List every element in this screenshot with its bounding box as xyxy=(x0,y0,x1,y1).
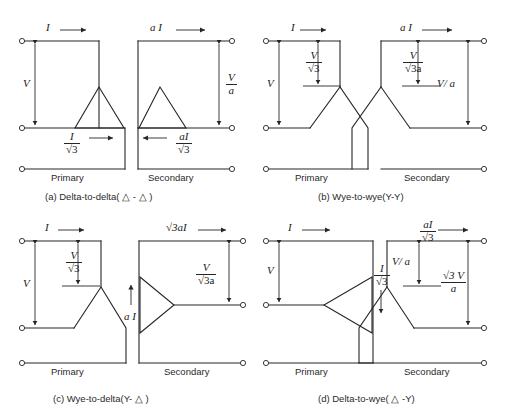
panel-b-secondary-phase-voltage-fraction: V √3a xyxy=(403,50,423,74)
fraction-denominator: a xyxy=(226,84,237,97)
panel-c-primary-voltage-label: V xyxy=(23,278,30,289)
panel-b-primary-phase-voltage-fraction: V √3 xyxy=(306,50,322,74)
panel-b-secondary-line-current-label: a I xyxy=(400,22,412,33)
panel-b-secondary-voltage-label: V/ a xyxy=(437,78,455,89)
transformer-connections-figure: I V I √3 Primary a I V a aI √3 Secondary… xyxy=(0,0,512,420)
panel-b-primary-voltage-label: V xyxy=(267,78,274,89)
panel-c-secondary-side-label: Secondary xyxy=(164,366,209,377)
fraction-numerator: aI xyxy=(420,219,436,231)
panel-a-secondary-voltage-fraction: V a xyxy=(226,72,237,96)
panel-c-primary-line-current-label: I xyxy=(45,222,49,233)
fraction-denominator: √3 xyxy=(64,143,80,156)
fraction-numerator: I xyxy=(374,263,390,275)
panel-a-caption: (a) Delta-to-delta( △ - △ ) xyxy=(45,191,152,202)
panel-a-primary-voltage-label: V xyxy=(23,78,30,89)
panel-a-secondary-side-label: Secondary xyxy=(148,172,193,183)
fraction-denominator: √3 xyxy=(306,62,322,75)
panel-b-primary-side-label: Primary xyxy=(295,172,328,183)
fraction-numerator: V xyxy=(403,50,423,62)
panel-c-secondary-phase-current-label: a I xyxy=(124,311,136,322)
panel-d-secondary-line-current-fraction: aI √3 xyxy=(420,219,436,243)
fraction-denominator: √3 xyxy=(374,275,390,288)
fraction-numerator: V xyxy=(196,262,216,274)
panel-d-primary-circuit xyxy=(263,230,381,366)
fraction-numerator: V xyxy=(66,250,82,262)
panel-d-caption: (d) Delta-to-wye( △ -Y) xyxy=(318,393,415,404)
panel-d-secondary-phase-voltage-label: V/ a xyxy=(392,256,410,267)
fraction-numerator: aI xyxy=(176,131,192,143)
panel-c-secondary-circuit xyxy=(131,230,246,366)
panel-d-primary-phase-current-fraction: I √3 xyxy=(374,263,390,287)
fraction-denominator: √3 xyxy=(176,143,192,156)
panel-c-secondary-voltage-fraction: V √3a xyxy=(196,262,216,286)
panel-d-secondary-circuit xyxy=(359,230,487,366)
panel-c-primary-phase-voltage-fraction: V √3 xyxy=(66,250,82,274)
panel-a-primary-phase-current-fraction: I √3 xyxy=(64,131,80,155)
panel-a-secondary-phase-current-fraction: aI √3 xyxy=(176,131,192,155)
panel-d-primary-side-label: Primary xyxy=(295,366,328,377)
fraction-numerator: I xyxy=(64,131,80,143)
panel-c-caption: (c) Wye-to-delta(Y- △ ) xyxy=(53,393,149,404)
panel-b-primary-line-current-label: I xyxy=(291,22,295,33)
fraction-denominator: a xyxy=(441,282,466,295)
panel-b-secondary-side-label: Secondary xyxy=(404,172,449,183)
panel-a-primary-side-label: Primary xyxy=(51,172,84,183)
fraction-numerator: V xyxy=(226,72,237,84)
fraction-numerator: √3 V xyxy=(441,270,466,282)
fraction-denominator: √3a xyxy=(196,274,216,287)
fraction-denominator: √3 xyxy=(66,262,82,275)
panel-d-primary-voltage-label: V xyxy=(267,265,274,276)
panel-d-secondary-side-label: Secondary xyxy=(404,366,449,377)
panel-a-secondary-line-current-label: a I xyxy=(150,22,162,33)
panel-a-primary-line-current-label: I xyxy=(46,22,50,33)
panel-c-primary-side-label: Primary xyxy=(51,366,84,377)
circuit-lines-layer xyxy=(0,0,512,420)
fraction-numerator: V xyxy=(306,50,322,62)
fraction-denominator: √3a xyxy=(403,62,423,75)
panel-d-primary-line-current-label: I xyxy=(288,222,292,233)
panel-d-secondary-voltage-fraction: √3 V a xyxy=(441,270,466,294)
fraction-denominator: √3 xyxy=(420,231,436,244)
panel-c-secondary-line-current-label: √3aI xyxy=(166,222,187,233)
panel-b-caption: (b) Wye-to-wye(Y-Y) xyxy=(318,191,404,202)
